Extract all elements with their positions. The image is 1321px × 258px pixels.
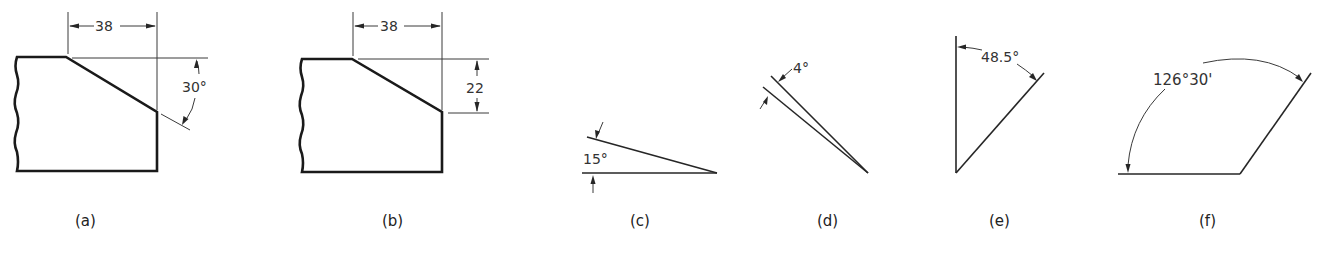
part-outline — [300, 59, 442, 172]
extension-line — [161, 114, 190, 130]
angle-label: 4° — [793, 60, 809, 76]
panel-f: 126°30' — [1118, 59, 1311, 174]
panel-c: 15° — [582, 122, 717, 193]
arrowhead-icon — [354, 24, 364, 29]
angle-label: 48.5° — [981, 49, 1019, 65]
panel-caption: (f) — [1199, 212, 1216, 230]
arrowhead-icon — [431, 24, 441, 29]
arrowhead-icon — [1126, 164, 1131, 173]
arrowhead-icon — [957, 45, 966, 50]
panel-caption: (a) — [75, 212, 96, 230]
arrowhead-icon — [475, 102, 480, 112]
angle-side — [771, 76, 868, 173]
angle-arc — [1017, 64, 1033, 76]
panel-a: 38 30° — [15, 12, 208, 171]
arrowhead-icon — [194, 59, 199, 68]
arrowhead-icon — [475, 60, 480, 70]
angle-side — [763, 87, 868, 173]
panel-caption: (c) — [630, 212, 650, 230]
angle-label: 30° — [182, 79, 207, 95]
angle-arc — [1203, 59, 1300, 78]
dimensioning-figure: 38 30° 38 22 15° — [0, 0, 1321, 258]
dimension-label: 38 — [95, 18, 113, 34]
angle-arc — [1128, 89, 1165, 165]
panel-d: 4° — [760, 60, 868, 173]
arrowhead-icon — [591, 175, 596, 184]
dimension-label: 38 — [380, 18, 398, 34]
panel-caption: (b) — [382, 212, 403, 230]
dimension-label: 22 — [466, 80, 484, 96]
panel-b: 38 22 — [300, 12, 489, 172]
arrowhead-icon — [69, 24, 79, 29]
panel-caption: (d) — [817, 212, 838, 230]
panel-e: 48.5° — [956, 36, 1044, 173]
arrowhead-icon — [595, 130, 600, 139]
angle-label: 126°30' — [1153, 71, 1212, 89]
angle-side — [956, 73, 1044, 173]
part-outline — [15, 57, 157, 171]
angle-side — [1240, 73, 1311, 174]
angle-arc — [187, 98, 195, 118]
arrowhead-icon — [146, 24, 156, 29]
angle-label: 15° — [583, 151, 608, 167]
panel-caption: (e) — [989, 212, 1010, 230]
